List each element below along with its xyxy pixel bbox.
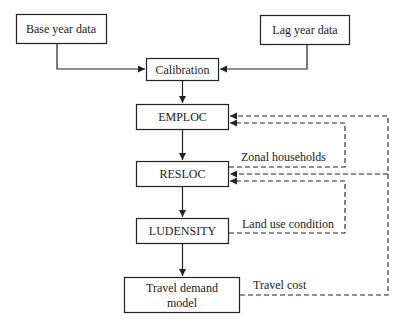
edge-travel-cost-to-emploc bbox=[230, 116, 388, 295]
node-resloc: RESLOC bbox=[137, 162, 229, 187]
node-label-line1: Travel demand bbox=[146, 281, 218, 295]
node-base-year-data: Base year data bbox=[17, 15, 107, 44]
node-label: EMPLOC bbox=[158, 110, 207, 124]
node-label: LUDENSITY bbox=[149, 224, 217, 238]
node-lag-year-data: Lag year data bbox=[261, 16, 350, 45]
flow-diagram: Base year data Lag year data Calibration… bbox=[0, 0, 401, 322]
node-label-line2: model bbox=[167, 296, 198, 310]
label-land-use-condition: Land use condition bbox=[242, 217, 334, 231]
node-label: Lag year data bbox=[272, 23, 338, 37]
node-emploc: EMPLOC bbox=[137, 105, 229, 130]
node-travel-demand-model: Travel demand model bbox=[125, 278, 240, 313]
label-travel-cost: Travel cost bbox=[253, 278, 307, 292]
node-calibration: Calibration bbox=[147, 59, 219, 81]
node-label: RESLOC bbox=[159, 167, 205, 181]
label-zonal-households: Zonal households bbox=[241, 150, 326, 164]
dashed-edges bbox=[229, 116, 388, 295]
edge-base-to-calibration bbox=[57, 44, 145, 70]
node-label: Calibration bbox=[156, 63, 210, 77]
node-label: Base year data bbox=[26, 22, 97, 36]
edge-lag-to-calibration bbox=[220, 45, 307, 70]
node-ludensity: LUDENSITY bbox=[137, 219, 229, 244]
